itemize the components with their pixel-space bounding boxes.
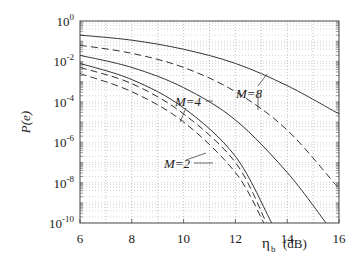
annotation-m8: M=8 <box>235 74 267 110</box>
x-tick-label: 12 <box>229 231 242 246</box>
svg-text:(dB): (dB) <box>283 236 307 251</box>
annotation-m2: M=2 <box>163 153 213 171</box>
y-tick-label: 100 <box>57 12 75 29</box>
y-tick-label: 10-2 <box>54 52 75 69</box>
y-axis-ticks: 10010-210-410-610-810-10 <box>49 12 75 231</box>
x-tick-label: 6 <box>77 231 84 246</box>
svg-text:b: b <box>271 244 276 254</box>
y-tick-label: 10-6 <box>54 133 75 150</box>
svg-text:M=2: M=2 <box>163 156 191 171</box>
y-tick-label: 10-10 <box>49 214 74 231</box>
svg-text:M=8: M=8 <box>235 86 263 101</box>
x-axis-label: η b (dB) <box>262 235 307 254</box>
y-axis-label: P(e) <box>18 111 33 134</box>
annotation-m4: M=4 <box>174 94 213 122</box>
x-tick-label: 10 <box>177 231 190 246</box>
svg-text:η: η <box>262 235 270 251</box>
y-tick-label: 10-8 <box>54 174 75 191</box>
error-probability-chart: 6810121416 10010-210-410-610-810-10 P(e)… <box>0 0 364 266</box>
x-tick-label: 16 <box>333 231 347 246</box>
series-line <box>80 55 326 223</box>
svg-text:M=4: M=4 <box>174 94 202 109</box>
x-tick-label: 8 <box>129 231 136 246</box>
y-tick-label: 10-4 <box>54 93 75 110</box>
